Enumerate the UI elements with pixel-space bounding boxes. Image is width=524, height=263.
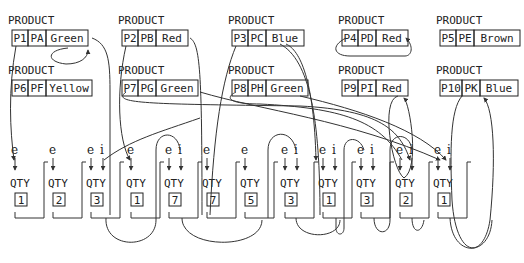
product-qty-network-diagram: PRODUCTP1PAGreenPRODUCTP2PBRedPRODUCTP3P… [0, 0, 524, 263]
product-code: PG [140, 82, 153, 95]
record-bracket [207, 162, 240, 218]
qty-label: QTY [86, 177, 106, 190]
qty-value: 5 [248, 194, 255, 207]
record-bracket [438, 162, 471, 218]
qty-value: 2 [56, 194, 63, 207]
qty-value: 7 [172, 194, 179, 207]
product-label: PRODUCT [436, 14, 483, 27]
qty-value: 2 [403, 194, 410, 207]
qty-value: 1 [18, 194, 25, 207]
wire-arc-3 [296, 218, 340, 235]
product-color: Green [160, 82, 193, 95]
product-color: Brown [480, 32, 513, 45]
product-id: P5 [441, 32, 454, 45]
product-id: P6 [13, 82, 26, 95]
product-color: Red [382, 82, 402, 95]
wire-p2-right [190, 38, 202, 215]
record-bracket [15, 162, 48, 218]
qty-label: QTY [433, 177, 453, 190]
record-bracket [245, 162, 278, 218]
wire-arc-2 [182, 218, 262, 242]
qty-value: 3 [94, 194, 101, 207]
product-records: PRODUCTP1PAGreenPRODUCTP2PBRedPRODUCTP3P… [8, 14, 520, 96]
record-bracket [361, 162, 394, 218]
qty-record: eiQTY3 [86, 143, 124, 218]
record-bracket [169, 162, 202, 218]
qty-value: 1 [326, 194, 333, 207]
record-bracket [285, 162, 318, 218]
product-label: PRODUCT [8, 64, 55, 77]
wire-diag-qty3 [104, 118, 200, 160]
qty-label: QTY [280, 177, 300, 190]
product-label: PRODUCT [338, 14, 385, 27]
wire-arc-6 [412, 218, 424, 230]
product-id: P1 [13, 32, 26, 45]
product-label: PRODUCT [228, 14, 275, 27]
product-code: PF [30, 82, 43, 95]
product-label: PRODUCT [338, 64, 385, 77]
qty-label: QTY [126, 177, 146, 190]
record-bracket [91, 162, 124, 218]
pointer-e: e [87, 143, 94, 157]
qty-label: QTY [395, 177, 415, 190]
product-color: Green [50, 32, 83, 45]
pointer-i: i [332, 143, 336, 157]
qty-record: eQTY1 [10, 143, 48, 218]
qty-record: eQTY1 [126, 143, 164, 218]
qty-value: 1 [134, 194, 141, 207]
product-record-p7: PRODUCTP7PGGreen [118, 64, 198, 96]
product-code: PA [30, 32, 44, 45]
qty-value: 3 [364, 194, 371, 207]
qty-record: eiQTY1 [318, 143, 356, 218]
product-record-p1: PRODUCTP1PAGreen [8, 14, 88, 46]
qty-label: QTY [10, 177, 30, 190]
product-code: PC [250, 32, 263, 45]
qty-record: eiQTY3 [356, 143, 394, 218]
product-id: P10 [441, 82, 461, 95]
pointer-e: e [49, 143, 56, 157]
record-bracket [131, 162, 164, 218]
product-record-p4: PRODUCTP4PDRed [338, 14, 408, 46]
qty-value: 1 [441, 194, 448, 207]
pointer-e: e [357, 143, 364, 157]
pointer-e: e [203, 143, 210, 157]
wire-arc-7 [450, 218, 492, 248]
product-color: Red [162, 32, 182, 45]
qty-record: eiQTY3 [280, 143, 318, 218]
product-id: P8 [233, 82, 246, 95]
qty-label: QTY [318, 177, 338, 190]
qty-label: QTY [356, 177, 376, 190]
pointer-e: e [165, 143, 172, 157]
product-code: PI [360, 82, 373, 95]
product-label: PRODUCT [436, 64, 483, 77]
product-code: PK [464, 82, 478, 95]
product-id: P2 [123, 32, 136, 45]
product-label: PRODUCT [228, 64, 275, 77]
product-color: Red [382, 32, 402, 45]
record-bracket [53, 162, 86, 218]
product-code: PE [458, 32, 471, 45]
product-record-p5: PRODUCTP5PEBrown [436, 14, 520, 46]
product-id: P3 [233, 32, 246, 45]
record-bracket [323, 162, 356, 218]
pointer-e: e [241, 143, 248, 157]
qty-record: eQTY7 [202, 143, 240, 218]
wire-p1-self-loop [51, 48, 88, 64]
wire-p10-loop [451, 96, 493, 248]
pointer-e: e [319, 143, 326, 157]
qty-record: eiQTY1 [433, 143, 471, 218]
product-record-p6: PRODUCTP6PFYellow [8, 64, 92, 96]
qty-record: eQTY5 [240, 143, 278, 218]
product-record-p9: PRODUCTP9PIRed [338, 64, 408, 96]
product-code: PB [140, 32, 154, 45]
product-record-p2: PRODUCTP2PBRed [118, 14, 188, 46]
product-label: PRODUCT [118, 14, 165, 27]
product-label: PRODUCT [118, 64, 165, 77]
product-label: PRODUCT [8, 14, 55, 27]
product-record-p8: PRODUCTP8PHGreen [228, 64, 308, 96]
product-code: PH [250, 82, 263, 95]
qty-records: eQTY1eQTY2eiQTY3eQTY1eiQTY7eQTY7eQTY5eiQ… [10, 143, 471, 218]
record-bracket [400, 162, 433, 218]
pointer-i: i [100, 143, 104, 157]
pointer-i: i [370, 143, 374, 157]
